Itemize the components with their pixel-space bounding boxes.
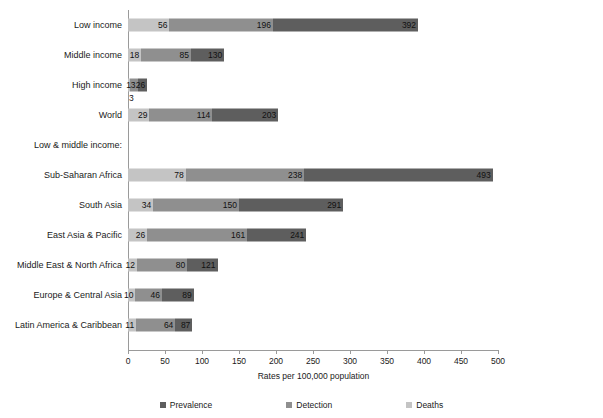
bar-value-label: 56 <box>158 21 167 30</box>
bar-segment-deaths: 11 <box>128 319 136 332</box>
legend-label: Detection <box>296 400 332 410</box>
bar-segment-deaths: 56 <box>128 19 169 32</box>
x-tick-label: 150 <box>232 356 246 366</box>
bar-segment-prevalence: 130 <box>191 49 224 62</box>
chart-row: High income31326 <box>128 70 498 100</box>
bar-stack: 78238493 <box>128 169 493 182</box>
bar-value-label: 29 <box>138 111 147 120</box>
legend-item-deaths: Deaths <box>406 400 443 410</box>
bar-value-label: 34 <box>142 201 151 210</box>
bar-stack: 29114203 <box>128 109 278 122</box>
bar-value-label: 196 <box>257 21 271 30</box>
bar-value-label: 46 <box>151 291 160 300</box>
bar-segment-detection: 85 <box>141 49 191 62</box>
bar-value-label: 12 <box>125 261 134 270</box>
chart-row: Europe & Central Asia104689 <box>128 280 498 310</box>
bar-segment-detection: 46 <box>135 289 162 302</box>
stacked-bar-chart: Low income56196392Middle income1885130Hi… <box>0 0 603 418</box>
x-tick-label: 350 <box>380 356 394 366</box>
bar-value-label: 238 <box>288 171 302 180</box>
bar-segment-deaths: 26 <box>128 229 147 242</box>
x-tick <box>313 350 314 354</box>
chart-row: Low income56196392 <box>128 10 498 40</box>
chart-row: Latin America & Caribbean116487 <box>128 310 498 340</box>
bar-value-label: 241 <box>290 231 304 240</box>
bar-stack: 34150291 <box>128 199 343 212</box>
row-label: Middle income <box>64 50 122 60</box>
bar-segment-prevalence: 392 <box>273 19 418 32</box>
bar-segment-deaths: 18 <box>128 49 141 62</box>
bar-segment-prevalence: 203 <box>212 109 278 122</box>
x-tick-label: 450 <box>454 356 468 366</box>
bar-segment-detection: 80 <box>137 259 187 272</box>
plot-area: Low income56196392Middle income1885130Hi… <box>128 10 498 350</box>
chart-row: Sub-Saharan Africa78238493 <box>128 160 498 190</box>
x-tick <box>276 350 277 354</box>
bar-segment-deaths: 12 <box>128 259 137 272</box>
chart-row: South Asia34150291 <box>128 190 498 220</box>
bar-segment-detection: 238 <box>186 169 304 182</box>
legend-swatch-icon <box>160 402 166 408</box>
x-tick <box>165 350 166 354</box>
row-label: Low income <box>74 20 122 30</box>
legend-swatch-icon <box>286 402 292 408</box>
row-label: South Asia <box>79 200 122 210</box>
x-tick-label: 50 <box>160 356 169 366</box>
bar-value-label: 78 <box>174 171 183 180</box>
legend-swatch-icon <box>406 402 412 408</box>
bar-segment-detection: 114 <box>149 109 212 122</box>
bar-value-label: 493 <box>477 171 491 180</box>
bar-value-label: 203 <box>262 111 276 120</box>
bar-segment-deaths: 10 <box>128 289 135 302</box>
legend-item-detection: Detection <box>286 400 332 410</box>
bar-value-label: 18 <box>130 51 139 60</box>
bar-value-label: 80 <box>176 261 185 270</box>
bar-segment-detection: 150 <box>153 199 239 212</box>
x-tick <box>350 350 351 354</box>
bar-stack: 1280121 <box>128 259 218 272</box>
bar-segment-deaths: 34 <box>128 199 153 212</box>
row-label: East Asia & Pacific <box>47 230 122 240</box>
bar-value-label: 161 <box>231 231 245 240</box>
chart-row: East Asia & Pacific26161241 <box>128 220 498 250</box>
bar-segment-detection: 64 <box>136 319 175 332</box>
bar-segment-prevalence: 26 <box>138 79 148 92</box>
bar-stack: 26161241 <box>128 229 306 242</box>
bar-value-label: 291 <box>327 201 341 210</box>
bar-segment-prevalence: 241 <box>247 229 306 242</box>
x-tick <box>202 350 203 354</box>
bar-value-label: 26 <box>136 81 145 90</box>
x-tick <box>498 350 499 354</box>
x-tick <box>461 350 462 354</box>
x-tick-label: 300 <box>343 356 357 366</box>
bar-segment-prevalence: 89 <box>162 289 194 302</box>
bar-value-label: 89 <box>182 291 191 300</box>
bar-segment-detection: 161 <box>147 229 247 242</box>
row-label: Europe & Central Asia <box>33 290 122 300</box>
bar-segment-prevalence: 121 <box>187 259 217 272</box>
chart-legend: PrevalenceDetectionDeaths <box>0 400 603 410</box>
x-tick-label: 400 <box>417 356 431 366</box>
bar-stack: 31326 <box>128 79 147 92</box>
x-axis-title: Rates per 100,000 population <box>128 371 499 381</box>
chart-section-header: Low & middle income: <box>128 130 498 160</box>
bar-value-label: 11 <box>125 321 134 330</box>
row-label: Latin America & Caribbean <box>15 320 122 330</box>
bar-value-label: 64 <box>164 321 173 330</box>
bar-segment-detection: 196 <box>169 19 273 32</box>
x-tick-label: 200 <box>269 356 283 366</box>
x-tick-label: 0 <box>126 356 131 366</box>
bar-value-label: 114 <box>197 111 211 120</box>
chart-row: Middle East & North Africa1280121 <box>128 250 498 280</box>
bar-stack: 104689 <box>128 289 194 302</box>
bar-value-label: 87 <box>181 321 190 330</box>
chart-row: World29114203 <box>128 100 498 130</box>
bar-stack: 116487 <box>128 319 192 332</box>
bar-value-label: 85 <box>179 51 188 60</box>
x-tick-label: 100 <box>195 356 209 366</box>
bar-stack: 56196392 <box>128 19 418 32</box>
bar-value-label: 150 <box>223 201 237 210</box>
x-tick <box>239 350 240 354</box>
bar-value-label: 121 <box>201 261 215 270</box>
chart-row: Middle income1885130 <box>128 40 498 70</box>
